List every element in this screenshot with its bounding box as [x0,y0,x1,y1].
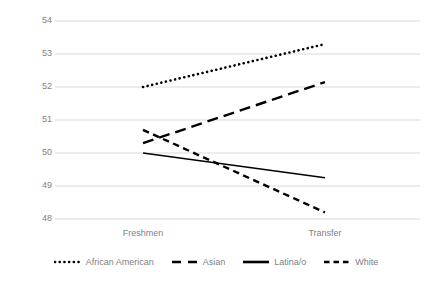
legend-swatch-short-dash-icon [323,257,351,267]
series-line-white [143,130,325,213]
legend-swatch-long-dash-icon [171,257,199,267]
series-line-african-american [143,44,325,87]
legend-swatch-solid-icon [242,257,270,267]
legend-item-latinao[interactable]: Latina/o [242,257,306,268]
plot-area [0,0,432,284]
x-axis-tick-transfer: Transfer [295,228,355,239]
legend-label-white: White [355,257,378,268]
legend-item-african-american[interactable]: African American [54,257,154,268]
series-line-asian [143,82,325,143]
chart-legend: African American Asian Latina/o White [0,252,432,272]
gridlines [55,21,420,219]
legend-swatch-dotted-icon [54,257,82,267]
legend-label-asian: Asian [203,257,226,268]
legend-label-african-american: African American [86,257,154,268]
chart-container: Discrimination and Bias on Campus Scores… [0,0,432,284]
series-line-latinao [143,153,325,178]
legend-item-asian[interactable]: Asian [171,257,226,268]
x-axis-tick-freshmen: Freshmen [113,228,173,239]
legend-item-white[interactable]: White [323,257,378,268]
data-series [143,44,325,212]
legend-label-latinao: Latina/o [274,257,306,268]
